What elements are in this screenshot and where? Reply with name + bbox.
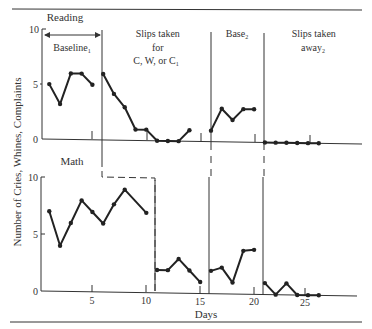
math-series: [47, 187, 321, 297]
data-point: [220, 107, 224, 111]
x-tick-label-15: 15: [195, 296, 205, 307]
data-point: [112, 202, 116, 206]
data-point: [90, 210, 94, 214]
data-point: [306, 141, 310, 145]
data-point: [176, 139, 180, 143]
top-rule: [12, 9, 362, 10]
data-point: [133, 127, 137, 131]
panel-math: Math 10 5 0 5 10 15 20 25 Days: [28, 143, 357, 320]
data-point: [144, 127, 148, 131]
data-point: [69, 221, 73, 225]
y-tick-label-0: 0: [33, 286, 38, 297]
arrow-left-icon: [44, 32, 50, 38]
data-point: [47, 82, 51, 86]
data-point: [176, 257, 180, 261]
data-point: [166, 268, 170, 272]
data-point: [47, 209, 51, 213]
y-tick-label-10: 10: [28, 172, 38, 183]
data-point: [155, 268, 159, 272]
y-tick-label-0: 0: [33, 134, 38, 145]
data-point: [198, 280, 202, 284]
data-point: [284, 141, 288, 145]
panel-reading: Reading 10 5 0 Baseline1 Slips taken for…: [29, 11, 362, 160]
data-point: [79, 71, 83, 75]
data-point: [209, 269, 213, 273]
x-tick-label-5: 5: [90, 295, 95, 306]
data-line: [157, 259, 200, 282]
data-point: [58, 243, 62, 247]
data-point: [58, 102, 62, 106]
data-point: [241, 249, 245, 253]
data-point: [306, 293, 310, 297]
data-line: [211, 250, 254, 283]
x-tick-label-25: 25: [300, 297, 310, 308]
phase-label-baseline1: Baseline1: [53, 42, 90, 54]
data-point: [209, 128, 213, 132]
data-point: [273, 140, 277, 144]
data-line: [49, 73, 92, 104]
data-point: [101, 72, 105, 76]
data-point: [230, 280, 234, 284]
data-point: [252, 107, 256, 111]
data-point: [230, 118, 234, 122]
x-axis-label: Days: [195, 308, 218, 320]
data-point: [187, 128, 191, 132]
data-point: [112, 92, 116, 96]
data-point: [252, 248, 256, 252]
phase-label-slips: Slips taken for C, W, or C1: [133, 28, 182, 67]
data-point: [69, 71, 73, 75]
data-point: [295, 293, 299, 297]
data-point: [317, 141, 321, 145]
data-point: [295, 141, 299, 145]
data-point: [166, 139, 170, 143]
x-tick-label-10: 10: [141, 295, 151, 306]
data-point: [155, 139, 159, 143]
y-tick-label-5: 5: [33, 79, 38, 90]
arrow-right-icon: [95, 32, 101, 38]
data-point: [187, 268, 191, 272]
data-point: [263, 140, 267, 144]
y-axis-label: Number of Cries, Whines, Complaints: [11, 77, 23, 246]
y-tick-label-5: 5: [33, 229, 38, 240]
data-point: [263, 281, 267, 285]
data-point: [123, 187, 127, 191]
dashed-phase-connector: [102, 160, 155, 291]
data-point: [123, 105, 127, 109]
data-point: [273, 292, 277, 296]
panel-title-math: Math: [60, 155, 84, 167]
data-point: [241, 107, 245, 111]
reading-series: [47, 71, 321, 145]
data-point: [220, 265, 224, 269]
multiple-baseline-chart: Number of Cries, Whines, Complaints Read…: [0, 0, 372, 329]
data-point: [317, 293, 321, 297]
y-tick-label-10: 10: [29, 24, 39, 35]
x-tick-label-20: 20: [249, 296, 259, 307]
data-line: [265, 283, 319, 295]
panel-title-reading: Reading: [47, 11, 84, 23]
phase-label-away: Slips taken away2: [292, 28, 339, 54]
data-point: [101, 221, 105, 225]
data-point: [144, 211, 148, 215]
data-point: [90, 83, 94, 87]
data-line: [49, 190, 146, 246]
data-line: [265, 142, 319, 143]
data-point: [79, 198, 83, 202]
data-point: [284, 281, 288, 285]
phase-label-base2: Base2: [226, 28, 248, 40]
